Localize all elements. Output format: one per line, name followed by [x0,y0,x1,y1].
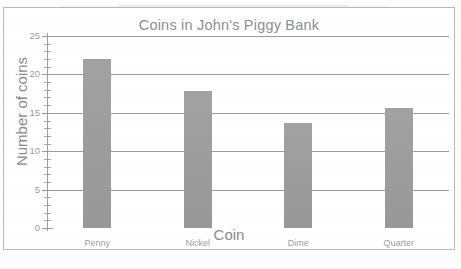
y-tick-minor [44,213,51,214]
gridline [47,36,449,37]
y-tick-minor [44,144,51,145]
y-tick-label: 5 [35,184,40,195]
bar-dime [284,123,312,228]
y-tick-minor [44,105,51,106]
y-tick-minor [44,121,51,122]
y-tick-label: 15 [29,107,40,118]
bar-quarter [385,108,413,228]
y-tick-major [42,36,53,37]
y-tick-minor [44,44,51,45]
y-tick-label: 20 [29,69,40,80]
bar-penny [83,59,111,228]
y-axis-line [47,33,48,231]
y-tick-minor [44,97,51,98]
y-tick-minor [44,197,51,198]
y-tick-major [42,113,53,114]
y-tick-minor [44,128,51,129]
scanned-page: Coins in John's Piggy Bank Number of coi… [0,0,461,269]
y-tick-major [42,74,53,75]
y-tick-minor [44,51,51,52]
y-axis-title: Number of coins [13,17,30,207]
bar-nickel [184,91,212,228]
y-tick-minor [44,90,51,91]
y-tick-minor [44,174,51,175]
x-axis-title: Coin [4,226,454,243]
y-tick-minor [44,182,51,183]
plot-wrapper: Number of coins 0510152025 PennyNickelDi… [4,8,456,251]
chart-frame: Coins in John's Piggy Bank Number of coi… [3,7,455,250]
y-tick-minor [44,205,51,206]
y-tick-minor [44,59,51,60]
y-tick-major [42,151,53,152]
y-tick-minor [44,220,51,221]
y-tick-minor [44,167,51,168]
y-tick-major [42,190,53,191]
y-tick-label: 25 [29,30,40,41]
y-tick-minor [44,136,51,137]
y-tick-label: 10 [29,145,40,156]
y-tick-minor [44,159,51,160]
y-tick-minor [44,82,51,83]
y-tick-minor [44,67,51,68]
plot-area: 0510152025 PennyNickelDimeQuarter [47,36,449,228]
